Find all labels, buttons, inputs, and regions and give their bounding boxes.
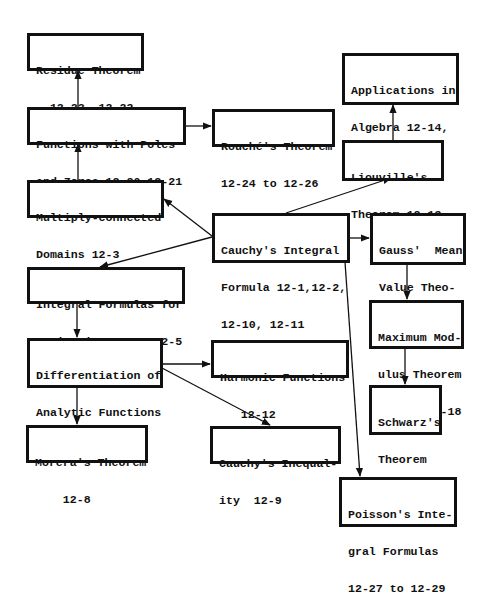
node-line: Morera's Theorem	[35, 457, 140, 469]
node-liouville-theorem: Liouville's Theorem 12-13	[342, 140, 444, 181]
node-line: ity 12-9	[219, 495, 333, 507]
node-line: Harmonic Functions	[220, 372, 341, 384]
node-line: Value Theo-	[379, 282, 458, 294]
node-maximum-modulus: Maximum Mod- ulus Theorem 12-17, 12-18	[369, 300, 464, 349]
node-line: Poisson's Inte-	[348, 509, 449, 521]
node-multiply-connected: Multiply-connected Domains 12-3	[27, 180, 164, 218]
node-line: Maximum Mod-	[378, 332, 456, 344]
node-residue-theorem: Residue Theorem 12-22, 12-23	[27, 33, 144, 71]
node-differentiation-analytic: Differentiation of Analytic Functions 12…	[27, 338, 163, 388]
node-line: gral Formulas	[348, 546, 449, 558]
node-poisson-integral: Poisson's Inte- gral Formulas 12-27 to 1…	[339, 477, 457, 527]
node-line: Cauchy's Integral	[221, 245, 342, 257]
node-line: Formula 12-1,12-2,	[221, 282, 342, 294]
node-morera-theorem: Morera's Theorem 12-8	[26, 425, 148, 463]
node-line: 12-10, 12-11	[221, 319, 342, 331]
node-line: 12-24 to 12-26	[221, 178, 327, 190]
node-line: Applications in	[351, 85, 451, 97]
node-gauss-mean-value: Gauss' Mean Value Theo- rem 12-16	[370, 213, 466, 265]
node-functions-poles-zeros: Functions with Poles and Zeros 12-20,12-…	[27, 107, 186, 145]
node-line: Schwarz's	[378, 417, 434, 429]
node-line: Algebra 12-14,	[351, 122, 451, 134]
node-cauchy-integral-formula: Cauchy's Integral Formula 12-1,12-2, 12-…	[212, 213, 350, 263]
node-line: Multiply-connected	[36, 212, 156, 224]
node-line: Gauss' Mean	[379, 245, 458, 257]
node-applications-algebra: Applications in Algebra 12-14, 12-15	[342, 53, 459, 105]
node-line: Analytic Functions	[36, 407, 155, 419]
node-schwarz-theorem: Schwarz's Theorem 12-19	[369, 385, 442, 435]
node-line: Rouché's Theorem	[221, 141, 327, 153]
node-line: Theorem	[378, 454, 434, 466]
node-rouche-theorem: Rouché's Theorem 12-24 to 12-26	[212, 109, 335, 147]
node-line: Differentiation of	[36, 370, 155, 382]
node-line: Residue Theorem	[36, 65, 136, 77]
node-line: 12-27 to 12-29	[348, 583, 449, 595]
node-line: Cauchy's Inequal-	[219, 458, 333, 470]
node-integral-formulas-derivatives: Integral Formulas for Derivatives 12-4,1…	[27, 267, 185, 304]
node-line: Functions with Poles	[36, 139, 178, 151]
node-harmonic-functions: Harmonic Functions 12-12	[211, 340, 349, 378]
node-line: Liouville's	[351, 172, 436, 184]
node-line: 12-8	[35, 494, 140, 506]
node-line: ulus Theorem	[378, 369, 456, 381]
node-line: 12-12	[220, 409, 341, 421]
node-cauchy-inequality: Cauchy's Inequal- ity 12-9	[210, 426, 341, 464]
node-line: Integral Formulas for	[36, 299, 177, 311]
node-line: Domains 12-3	[36, 249, 156, 261]
